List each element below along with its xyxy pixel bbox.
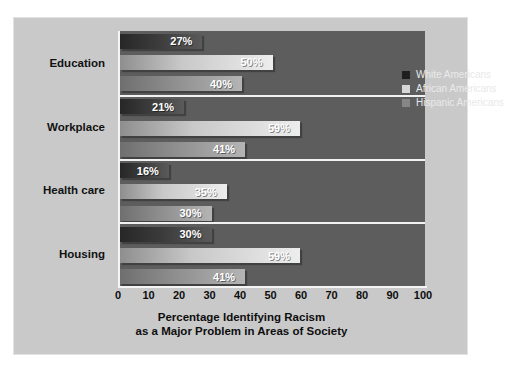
bar-track-workplace-white: 21% [120,97,425,118]
x-axis-tick-80: 80 [356,289,368,301]
bar-track-education-hispanic: 40% [120,74,425,95]
chart-figure: Education Workplace Health care Housing … [13,17,468,355]
x-axis-tick-40: 40 [234,289,246,301]
x-axis-title-line-1: Percentage Identifying Racism [14,310,469,324]
bar-track-education-african: 50% [120,52,425,73]
chart-legend: White Americans African Americans Hispan… [402,68,509,110]
y-axis-label-workplace: Workplace [14,95,112,159]
bar-group-education: 27% 50% 40% [120,31,425,95]
x-axis-tick-10: 10 [142,289,154,301]
x-axis-tick-90: 90 [386,289,398,301]
legend-item-hispanic-americans: Hispanic Americans [402,96,509,109]
bar-value-housing-hispanic-americans: 41% [213,267,235,288]
legend-swatch-icon-hispanic-americans [402,99,410,107]
bar-group-health-care: 16% 35% 30% [120,159,425,223]
x-axis: 0102030405060708090100 [118,286,427,306]
legend-item-african-americans: African Americans [402,82,509,95]
bar-value-education-hispanic-americans: 40% [210,74,232,95]
bar-value-education-african-americans: 50% [241,52,263,73]
bar-value-health-care-white-americans: 16% [137,161,159,182]
legend-swatch-icon-african-americans [402,85,410,93]
bar-track-housing-african: 59% [120,246,425,267]
bar-value-workplace-african-americans: 59% [268,118,290,139]
x-axis-tick-70: 70 [325,289,337,301]
legend-label-white-americans: White Americans [416,69,491,80]
bar-track-health-care-african: 35% [120,182,425,203]
y-axis-label-housing: Housing [14,222,112,286]
y-axis-category-labels: Education Workplace Health care Housing [14,31,112,286]
x-axis-tick-60: 60 [295,289,307,301]
bar-track-health-care-hispanic: 30% [120,203,425,224]
x-axis-title: Percentage Identifying Racism as a Major… [14,310,469,338]
bar-track-housing-hispanic: 41% [120,267,425,288]
y-axis-label-education: Education [14,31,112,95]
bar-track-workplace-hispanic: 41% [120,139,425,160]
bar-value-housing-white-americans: 30% [180,224,202,245]
y-axis-label-health-care: Health care [14,159,112,223]
x-axis-tick-20: 20 [173,289,185,301]
bar-value-workplace-white-americans: 21% [152,97,174,118]
bar-group-workplace: 21% 59% 41% [120,95,425,159]
bar-value-health-care-hispanic-americans: 30% [180,203,202,224]
bar-track-education-white: 27% [120,31,425,52]
x-axis-line [118,286,427,288]
legend-swatch-icon-white-americans [402,71,410,79]
bar-track-housing-white: 30% [120,224,425,245]
top-caption [0,0,484,9]
bar-value-workplace-hispanic-americans: 41% [213,139,235,160]
bar-group-housing: 30% 59% 41% [120,222,425,286]
x-axis-tick-50: 50 [264,289,276,301]
bar-value-health-care-african-americans: 35% [195,182,217,203]
x-axis-tick-30: 30 [203,289,215,301]
bar-track-health-care-white: 16% [120,161,425,182]
legend-label-hispanic-americans: Hispanic Americans [416,97,504,108]
x-axis-tick-0: 0 [115,289,121,301]
x-axis-tick-100: 100 [414,289,432,301]
bar-track-workplace-african: 59% [120,118,425,139]
bar-value-education-white-americans: 27% [170,31,192,52]
legend-label-african-americans: African Americans [416,83,497,94]
x-axis-title-line-2: as a Major Problem in Areas of Society [14,324,469,338]
plot-area: 27% 50% 40% 21% 59% 41% [118,31,425,286]
bar-value-housing-african-americans: 59% [268,246,290,267]
legend-item-white-americans: White Americans [402,68,509,81]
